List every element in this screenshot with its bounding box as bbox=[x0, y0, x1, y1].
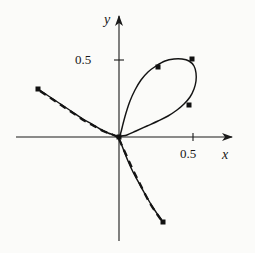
x-axis-label: x bbox=[222, 148, 228, 162]
plot-svg bbox=[0, 0, 255, 253]
figure-canvas: 0.5 0.5 x y bbox=[0, 0, 255, 253]
y-axis-label: y bbox=[104, 13, 110, 27]
exact-curve bbox=[38, 59, 196, 222]
data-point-marker bbox=[36, 87, 41, 92]
data-point-marker bbox=[161, 220, 166, 225]
data-point-marker bbox=[156, 65, 161, 70]
approximation-curve-upper-left bbox=[40, 91, 118, 137]
data-point-markers bbox=[36, 57, 195, 225]
approximation-curve-lower-right bbox=[119, 139, 162, 221]
data-point-marker bbox=[187, 103, 192, 108]
y-tick-label-0-5: 0.5 bbox=[75, 53, 91, 66]
data-point-marker bbox=[117, 135, 122, 140]
x-tick-label-0-5: 0.5 bbox=[180, 147, 196, 160]
data-point-marker bbox=[190, 57, 195, 62]
